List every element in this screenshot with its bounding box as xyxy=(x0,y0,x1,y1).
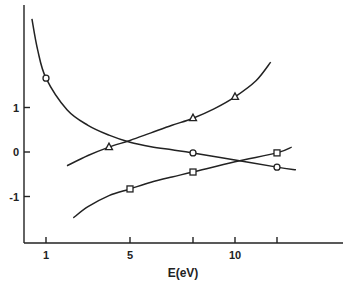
x-tick-label: 1 xyxy=(43,249,49,261)
y-tick-label: -1 xyxy=(9,191,19,203)
series-curves xyxy=(32,19,296,218)
square-marker xyxy=(190,169,196,175)
triangle-marker xyxy=(232,93,239,100)
line-chart: 1510 10-1 E(eV) xyxy=(0,0,349,295)
circle-marker xyxy=(274,164,280,170)
square-marker xyxy=(127,186,133,192)
triangle-marker xyxy=(190,114,197,121)
y-ticks: 10-1 xyxy=(9,102,30,203)
x-tick-label: 5 xyxy=(127,249,133,261)
series-markers xyxy=(43,75,280,192)
triangle-marker xyxy=(106,143,113,150)
circle-marker xyxy=(190,150,196,156)
y-tick-label: 0 xyxy=(13,146,19,158)
circles-curve xyxy=(32,19,296,170)
x-tick-label: 10 xyxy=(229,249,241,261)
triangles-curve xyxy=(67,62,271,166)
square-marker xyxy=(274,150,280,156)
squares-curve xyxy=(73,147,291,218)
x-axis-title: E(eV) xyxy=(168,266,199,280)
circle-marker xyxy=(43,75,49,81)
y-tick-label: 1 xyxy=(13,102,19,114)
axes xyxy=(24,5,343,243)
x-ticks: 1510 xyxy=(43,237,277,261)
